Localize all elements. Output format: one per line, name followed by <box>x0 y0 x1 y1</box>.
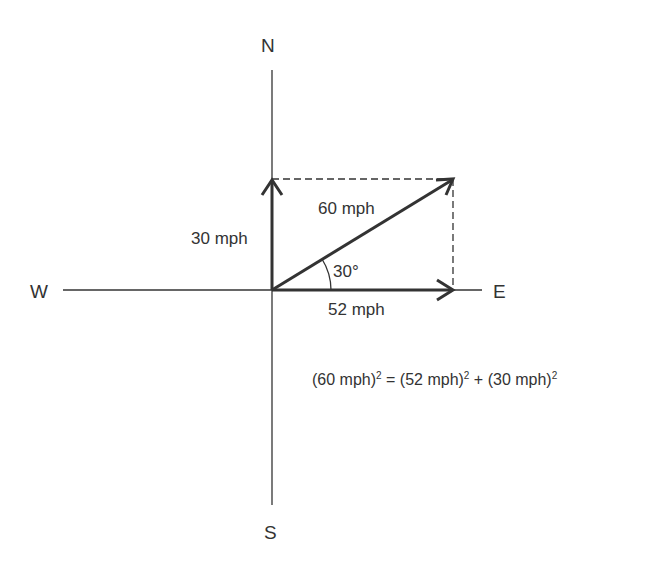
pythagorean-equation: (60 mph)2 = (52 mph)2 + (30 mph)2 <box>312 371 557 389</box>
equation-middle-term: (52 mph) <box>400 371 464 388</box>
exponent: 2 <box>552 370 558 381</box>
angle-arc <box>322 259 331 290</box>
equation-left-term: (60 mph) <box>312 371 376 388</box>
south-label: S <box>264 523 277 542</box>
east-label: E <box>493 282 506 301</box>
east-vector-label: 52 mph <box>328 301 385 318</box>
equals-sign: = <box>382 371 400 388</box>
west-label: W <box>30 282 48 301</box>
north-vector-label: 30 mph <box>191 230 248 247</box>
resultant-vector <box>272 180 452 290</box>
north-label: N <box>261 36 275 55</box>
equation-right-term: (30 mph) <box>488 371 552 388</box>
plus-sign: + <box>469 371 487 388</box>
angle-label: 30° <box>333 263 359 280</box>
vector-diagram <box>0 0 657 571</box>
resultant-vector-label: 60 mph <box>318 200 375 217</box>
